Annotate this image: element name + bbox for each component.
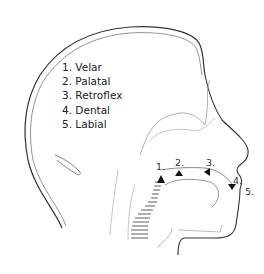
marker-label-1: 1. <box>156 161 165 172</box>
legend-item-palatal: 2. Palatal <box>62 74 122 88</box>
legend: 1. Velar 2. Palatal 3. Retroflex 4. Dent… <box>62 60 122 131</box>
neck-spine <box>110 170 135 240</box>
head-diagram <box>0 0 264 274</box>
legend-item-velar: 1. Velar <box>62 60 122 74</box>
palatal-marker-icon <box>175 170 183 176</box>
neck-back <box>55 155 80 175</box>
marker-label-4: 4. <box>233 175 242 186</box>
retroflex-marker-icon <box>204 168 210 176</box>
legend-item-dental: 4. Dental <box>62 103 122 117</box>
nasal-structures <box>140 80 210 155</box>
airflow-hatching <box>131 182 162 238</box>
legend-item-retroflex: 3. Retroflex <box>62 88 122 102</box>
jaw-line <box>158 225 222 248</box>
velar-marker-icon <box>157 175 165 183</box>
tongue-outline <box>165 179 219 207</box>
marker-label-2: 2. <box>175 157 184 168</box>
marker-label-5: 5. <box>245 186 254 197</box>
legend-item-labial: 5. Labial <box>62 117 122 131</box>
sinus-detail <box>150 118 215 140</box>
marker-label-3: 3. <box>206 157 215 168</box>
